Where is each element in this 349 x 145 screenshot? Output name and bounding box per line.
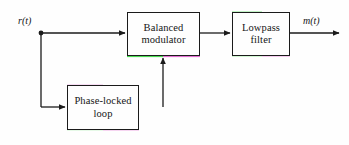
balanced-modulator-label-line2: modulator xyxy=(141,34,185,46)
balanced-modulator-label-line1: Balanced xyxy=(144,22,184,34)
lowpass-filter-label-line1: Lowpass xyxy=(242,22,280,34)
input-signal-label: r(t) xyxy=(18,15,31,26)
phase-locked-loop-block[interactable]: Phase-locked loop xyxy=(67,85,139,130)
lowpass-filter-label-line2: filter xyxy=(250,34,271,46)
phase-locked-loop-label-line2: loop xyxy=(93,108,112,120)
block-diagram: Balanced modulator Lowpass filter Phase-… xyxy=(0,0,349,145)
lowpass-filter-block[interactable]: Lowpass filter xyxy=(232,12,290,56)
phase-locked-loop-label-line1: Phase-locked xyxy=(74,95,131,107)
input-branch-junction xyxy=(39,31,44,36)
output-signal-label: m(t) xyxy=(303,15,320,26)
balanced-modulator-block[interactable]: Balanced modulator xyxy=(127,12,200,56)
